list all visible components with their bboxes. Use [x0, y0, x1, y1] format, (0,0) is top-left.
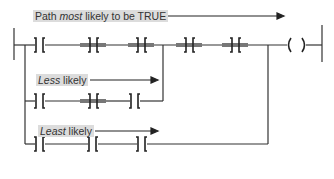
contact-icon [129, 94, 140, 108]
label-most-likely: Path most likely to be TRUE [33, 10, 168, 22]
arrow-right-icon [90, 77, 158, 83]
label-least-likely: Least likely [38, 125, 94, 137]
coil-icon [289, 38, 305, 52]
contact-icon [87, 137, 98, 151]
label-less-likely: Less likely [36, 74, 88, 86]
arrow-right-icon [167, 13, 284, 19]
contact-icon [34, 38, 45, 52]
contact-icon [136, 137, 147, 151]
ladder-diagram [0, 0, 334, 179]
contact-icon [34, 94, 45, 108]
contact-icon [34, 137, 45, 151]
arrow-right-icon [95, 128, 158, 134]
